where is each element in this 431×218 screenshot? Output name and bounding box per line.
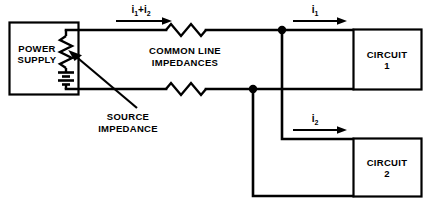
current-label-total: i1+i2 [131,4,150,17]
common-line-impedance-top-resistor [166,24,206,36]
junction-dot-bottom [249,85,257,93]
common-line-impedance-bottom-resistor [166,83,206,95]
branch-wire-to-circuit2-bottom [253,89,353,196]
current-arrow-i1-head [337,17,347,25]
current-label-i1: i1 [312,4,319,17]
source-impedance-label-line1: SOURCE [107,111,149,122]
current-label-i2: i2 [312,113,319,126]
current-arrow-i2-head [337,126,347,134]
junction-dot-top [278,26,286,34]
circuit-diagram: POWER SUPPLY CIRCUIT [0,0,431,218]
circuit-2-label-line1: CIRCUIT [367,157,408,168]
circuit-1-label-line1: CIRCUIT [367,49,408,60]
common-line-impedances-label-line1: COMMON LINE [149,45,221,56]
circuit-diagram-canvas: POWER SUPPLY CIRCUIT [0,0,431,218]
power-supply-label-line1: POWER [18,43,55,54]
power-supply-label-line2: SUPPLY [18,54,57,65]
circuit-2-label-line2: 2 [384,168,390,179]
source-impedance-label-line2: IMPEDANCE [98,123,158,134]
source-impedance-leader-line [73,54,137,108]
common-line-impedances-label-line2: IMPEDANCES [152,57,218,68]
circuit-1-label-line2: 1 [384,60,390,71]
